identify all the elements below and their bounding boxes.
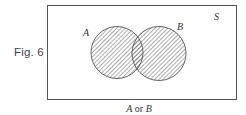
shaded-union-region [91,27,186,81]
caption: A or B [125,103,152,114]
caption-set-a: A [125,103,133,114]
caption-set-b: B [146,103,152,114]
venn-diagram: A B S A or B [0,0,246,115]
caption-connector: or [135,103,144,114]
universe-label: S [214,11,219,22]
set-b-label: B [177,21,183,32]
set-a-label: A [82,27,90,38]
